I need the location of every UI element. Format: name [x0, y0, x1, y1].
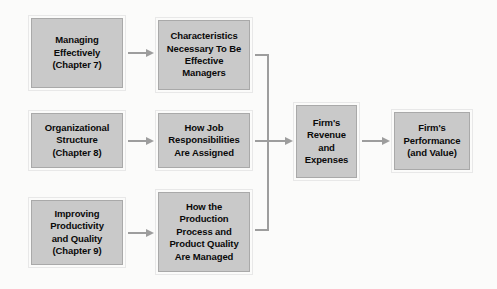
box-managing-effectively-label: Managing Effectively (Chapter 7) [35, 34, 119, 71]
box-firms-revenue-expenses-label: Firm's Revenue and Expenses [300, 117, 353, 167]
arrow-revenue-to-performance-head [382, 137, 390, 145]
arrow-productivity-to-production-head [146, 229, 154, 237]
connector-vertical-trunk [267, 54, 269, 231]
box-how-production-process-label: How the Production Process and Product Q… [162, 201, 246, 263]
box-characteristics-effective-managers: Characteristics Necessary To Be Effectiv… [158, 20, 250, 90]
box-how-production-process: How the Production Process and Product Q… [158, 192, 250, 272]
box-how-job-responsibilities: How Job Responsibilities Are Assigned [158, 113, 250, 168]
box-how-job-responsibilities-label: How Job Responsibilities Are Assigned [162, 122, 246, 159]
box-improving-productivity: Improving Productivity and Quality (Chap… [31, 200, 123, 265]
box-managing-effectively: Managing Effectively (Chapter 7) [31, 18, 123, 88]
box-organizational-structure-label: Organizational Structure (Chapter 8) [35, 122, 119, 159]
arrow-structure-to-responsibilities-head [146, 137, 154, 145]
arrow-managing-to-characteristics-head [146, 49, 154, 57]
arrow-trunk-to-revenue-head [285, 137, 293, 145]
box-firms-performance: Firm's Performance (and Value) [394, 112, 470, 170]
box-characteristics-effective-managers-label: Characteristics Necessary To Be Effectiv… [162, 30, 246, 80]
box-firms-performance-label: Firm's Performance (and Value) [398, 122, 466, 159]
diagram-canvas: Managing Effectively (Chapter 7) Organiz… [0, 0, 497, 289]
box-firms-revenue-expenses: Firm's Revenue and Expenses [296, 105, 357, 178]
box-improving-productivity-label: Improving Productivity and Quality (Chap… [35, 208, 119, 258]
box-organizational-structure: Organizational Structure (Chapter 8) [31, 113, 123, 168]
